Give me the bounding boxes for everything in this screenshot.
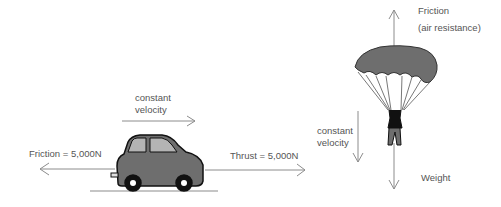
parachutist	[388, 110, 402, 145]
thrust-label: Thrust = 5,000N	[230, 150, 298, 162]
car-velocity-label: constant velocity	[135, 92, 171, 116]
parachute	[355, 46, 437, 145]
car	[111, 135, 203, 191]
air-resistance-label-line1: Friction	[418, 5, 449, 17]
friction-label: Friction = 5,000N	[29, 148, 102, 160]
parachutist-torso	[388, 110, 402, 128]
parachute-lines	[358, 72, 430, 110]
parachute-velocity-label-line1: constant	[317, 125, 353, 137]
friction-arrow	[40, 163, 115, 175]
weight-arrow	[389, 143, 399, 189]
thrust-arrow	[205, 164, 305, 176]
weight-label: Weight	[421, 172, 450, 184]
air-resistance-label-line2: (air resistance)	[418, 22, 481, 34]
car-velocity-label-line1: constant	[135, 92, 171, 104]
car-bumper	[111, 173, 118, 177]
parachute-velocity-label-line2: velocity	[317, 137, 353, 149]
parachute-velocity-arrow	[353, 111, 363, 162]
parachutist-legs	[388, 128, 401, 145]
car-velocity-label-line2: velocity	[135, 104, 171, 116]
car-velocity-arrow	[122, 116, 195, 126]
parachute-velocity-label: constant velocity	[317, 125, 353, 149]
